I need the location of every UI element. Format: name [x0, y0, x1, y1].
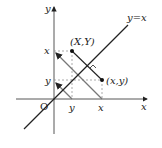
- x-tick-y: y: [68, 102, 75, 113]
- right-angle-mark: [90, 65, 96, 68]
- y-axis-label: y: [44, 3, 51, 14]
- y-tick-x: x: [44, 45, 50, 56]
- point-xy: [100, 78, 104, 82]
- x-axis-label: x: [141, 101, 147, 112]
- x-tick-x: x: [98, 102, 104, 113]
- origin-label: O: [40, 101, 48, 112]
- reflection-diagram: y x O y=x (X,Y) (x,y) y x x y: [0, 0, 162, 148]
- point-xy-label: (x,y): [106, 75, 128, 86]
- y-tick-y: y: [44, 75, 51, 86]
- perpendicular-lines: [56, 53, 102, 99]
- line-label: y=x: [126, 12, 147, 23]
- point-XY-label: (X,Y): [70, 36, 95, 47]
- point-XY: [70, 49, 74, 53]
